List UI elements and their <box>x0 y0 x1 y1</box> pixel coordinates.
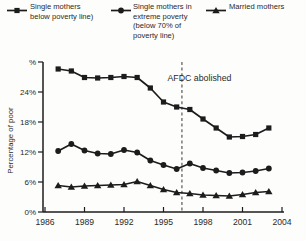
circle-marker <box>266 166 272 172</box>
square-marker <box>227 134 232 139</box>
x-tick-label: 2004 <box>272 217 291 227</box>
square-marker <box>266 125 271 130</box>
chart-plot-area: %24%18%12%6%0%19861989199219951998200120… <box>0 0 306 241</box>
square-marker <box>82 75 87 80</box>
circle-marker <box>108 151 114 157</box>
square-marker <box>161 99 166 104</box>
circle-marker <box>147 158 153 164</box>
square-marker <box>253 132 258 137</box>
y-tick-label: 6% <box>24 178 36 187</box>
circle-marker <box>134 150 140 156</box>
circle-marker <box>200 165 206 171</box>
circle-marker <box>68 141 74 147</box>
y-tick-label: 18% <box>20 118 36 127</box>
series-line <box>58 144 269 173</box>
x-tick-label: 1995 <box>154 217 173 227</box>
square-marker <box>56 66 61 71</box>
circle-marker <box>226 170 232 176</box>
square-marker <box>135 75 140 80</box>
square-marker <box>108 75 113 80</box>
circle-marker <box>121 147 127 153</box>
circle-marker <box>95 151 101 157</box>
y-tick-label: 24% <box>20 88 36 97</box>
circle-marker <box>82 148 88 154</box>
square-marker <box>200 116 205 121</box>
circle-marker <box>55 148 61 154</box>
poverty-chart-figure: Single mothers below poverty line) Singl… <box>0 0 306 241</box>
square-marker <box>240 134 245 139</box>
x-tick-label: 1998 <box>193 217 212 227</box>
square-marker <box>187 107 192 112</box>
circle-marker <box>240 170 246 176</box>
circle-marker <box>213 168 219 174</box>
circle-marker <box>253 168 259 174</box>
square-marker <box>214 125 219 130</box>
y-tick-label: 0% <box>24 208 36 217</box>
x-tick-label: 1992 <box>114 217 133 227</box>
series-circle <box>55 141 271 176</box>
x-tick-label: 1989 <box>75 217 94 227</box>
circle-marker <box>174 166 180 172</box>
y-tick-label: 12% <box>20 148 36 157</box>
square-marker <box>174 104 179 109</box>
triangle-marker <box>133 178 140 184</box>
circle-marker <box>187 161 193 167</box>
series-triangle <box>54 178 272 199</box>
x-tick-label: 2001 <box>233 217 252 227</box>
x-tick-label: 1986 <box>35 217 54 227</box>
circle-marker <box>161 162 167 168</box>
annotation-afdc-abolished: AFDC abolished <box>167 73 231 83</box>
y-tick-label: % <box>29 58 36 67</box>
series-square <box>56 66 272 139</box>
square-marker <box>95 75 100 80</box>
square-marker <box>69 68 74 73</box>
square-marker <box>148 85 153 90</box>
square-marker <box>121 74 126 79</box>
